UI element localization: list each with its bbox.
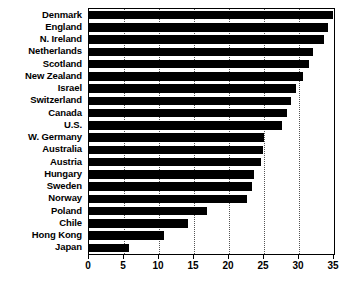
bar-row [89,21,334,33]
bar [89,231,164,240]
bar [89,158,261,167]
bar-row [89,217,334,229]
y-axis-label: U.S. [64,118,85,130]
x-axis-tick [333,254,334,259]
bar-row [89,168,334,180]
y-axis-label: Japan [55,241,85,253]
bar-row [89,83,334,95]
bar [89,60,309,69]
bar [89,146,263,155]
bar-row [89,58,334,70]
y-axis-label: Austria [50,155,85,167]
y-axis-label: Hong Kong [32,229,85,241]
bar-row [89,70,334,82]
bar [89,121,282,130]
bar-row [89,132,334,144]
x-axis-tick [298,254,299,259]
bar [89,207,207,216]
x-axis-tick [228,254,229,259]
bar-row [89,34,334,46]
x-axis-tick [158,254,159,259]
bar-row [89,156,334,168]
x-axis-tick-label: 20 [222,260,233,271]
x-axis-tick-label: 0 [85,260,91,271]
bar [89,109,287,118]
y-axis-label: Netherlands [28,45,85,57]
y-axis-label: N. Ireland [40,33,85,45]
y-axis-label: Sweden [47,180,85,192]
x-axis-tick-label: 10 [152,260,163,271]
y-axis-label: New Zealand [25,69,85,81]
y-axis-label: Chile [59,216,85,228]
x-axis-tick-label: 5 [120,260,126,271]
bar-row [89,95,334,107]
x-axis-tick [88,254,89,259]
bar [89,133,264,142]
bar [89,48,313,57]
x-axis-tick-label: 35 [327,260,338,271]
y-axis-label: W. Germany [28,131,85,143]
y-axis-category-labels: DenmarkEnglandN. IrelandNetherlandsScotl… [0,8,85,253]
x-axis-tick [123,254,124,259]
y-axis-label: England [45,20,85,32]
y-axis-label: Scotland [43,57,85,69]
bar-row [89,193,334,205]
bar-row [89,144,334,156]
plot-inner [89,9,334,254]
x-axis-tick-labels: 05101520253035 [88,260,335,276]
bar-row [89,46,334,58]
bar-chart: DenmarkEnglandN. IrelandNetherlandsScotl… [0,0,352,285]
y-axis-label: Canada [48,106,85,118]
bar [89,35,324,44]
bar [89,11,333,20]
bar [89,23,328,32]
bar [89,219,188,228]
bar-row [89,119,334,131]
y-axis-label: Denmark [42,8,85,20]
bar [89,244,129,253]
bar [89,182,252,191]
y-axis-label: Israel [58,82,85,94]
bar [89,195,247,204]
y-axis-label: Switzerland [30,94,85,106]
bar [89,170,254,179]
bar-row [89,107,334,119]
bar-row [89,9,334,21]
x-axis-tick-label: 15 [187,260,198,271]
x-axis-tick [263,254,264,259]
plot-area [88,8,335,255]
bar-row [89,181,334,193]
x-axis-tick-label: 25 [257,260,268,271]
y-axis-label: Australia [42,143,85,155]
bar-series [89,9,334,254]
bar [89,72,303,81]
y-axis-label: Hungary [44,167,85,179]
bar-row [89,205,334,217]
y-axis-label: Poland [51,204,85,216]
x-axis-tick-label: 30 [292,260,303,271]
x-axis-tick [193,254,194,259]
y-axis-label: Norway [48,192,85,204]
bar [89,84,296,93]
bar [89,97,291,106]
bar-row [89,242,334,254]
bar-row [89,230,334,242]
